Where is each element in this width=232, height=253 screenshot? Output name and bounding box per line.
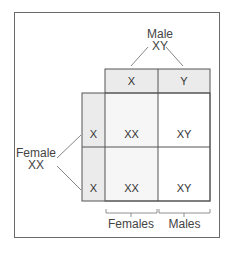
offspring-cell-r2c1: XX (105, 174, 158, 201)
male-gamete-x: X (105, 69, 158, 93)
females-group-label: Females (103, 218, 159, 231)
female-gamete-x-2: X (82, 174, 105, 201)
females-brace (106, 209, 157, 213)
male-parent-genotype: XY (140, 40, 180, 53)
offspring-cell-r2c2: XY (158, 174, 210, 201)
female-to-x2-line (57, 166, 81, 190)
female-to-x1-line (57, 135, 81, 158)
males-brace (159, 209, 210, 213)
offspring-cell-r1c2: XY (158, 120, 210, 147)
offspring-cell-r1c1: XX (105, 120, 158, 147)
males-group-label: Males (159, 218, 210, 231)
male-gamete-y: Y (158, 69, 210, 93)
female-gamete-x-1: X (82, 120, 105, 147)
female-parent-genotype: XX (14, 159, 58, 172)
